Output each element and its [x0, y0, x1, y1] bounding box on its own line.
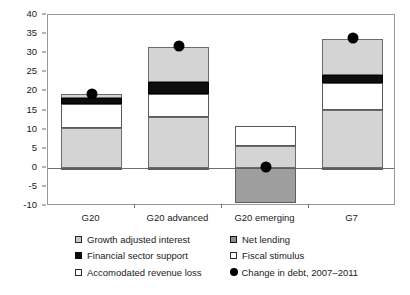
chart-legend: Growth adjusted interestFinancial sector…: [47, 232, 395, 284]
x-tick-mark: [134, 204, 135, 208]
y-tick-mark: [42, 71, 46, 72]
change-in-debt-marker: [260, 162, 271, 173]
y-tick-mark: [42, 185, 46, 186]
x-tick-mark: [308, 204, 309, 208]
square-swatch-black-icon: [75, 252, 82, 259]
change-in-debt-marker: [347, 33, 358, 44]
y-tick-label: 30: [26, 47, 37, 57]
legend-column-left: Growth adjusted interestFinancial sector…: [75, 232, 202, 282]
legend-item[interactable]: Financial sector support: [75, 249, 202, 263]
legend-item[interactable]: Accomodated revenue loss: [75, 265, 202, 279]
bar-segment: [148, 94, 209, 117]
bar-segment-negative: [61, 168, 122, 170]
y-tick-label: 0: [32, 162, 37, 172]
plot-frame: [47, 14, 395, 205]
bar-group: [235, 15, 296, 204]
square-swatch-darkgray-icon: [230, 236, 237, 243]
x-tick-label: G7: [345, 212, 358, 223]
legend-label: Financial sector support: [87, 250, 188, 261]
bar-segment-negative: [148, 168, 209, 170]
y-tick-label: -10: [23, 200, 37, 210]
y-tick-mark: [42, 33, 46, 34]
y-tick-label: 25: [26, 66, 37, 76]
y-tick-mark: [42, 147, 46, 148]
legend-label: Net lending: [242, 234, 290, 245]
y-tick-mark: [42, 205, 46, 206]
y-tick-label: 15: [26, 105, 37, 115]
chart-figure: -10-50510152025303540 G20G20 advancedG20…: [0, 0, 410, 295]
bar-segment-negative: [322, 168, 383, 170]
y-tick-mark: [42, 166, 46, 167]
change-in-debt-marker: [86, 88, 97, 99]
legend-label: Fiscal stimulus: [242, 250, 304, 261]
bar-group: [148, 15, 209, 204]
bar-segment: [61, 128, 122, 167]
bar-segment: [322, 83, 383, 111]
y-tick-mark: [42, 109, 46, 110]
x-tick-label: G20 advanced: [147, 212, 209, 223]
legend-item[interactable]: Change in debt, 2007–2011: [230, 265, 358, 279]
square-swatch-white-icon: [75, 269, 82, 276]
y-tick-mark: [42, 90, 46, 91]
plot-area: [48, 15, 394, 204]
y-axis: -10-50510152025303540: [0, 0, 47, 205]
legend-label: Change in debt, 2007–2011: [242, 267, 359, 278]
legend-label: Accomodated revenue loss: [87, 267, 202, 278]
legend-item[interactable]: Growth adjusted interest: [75, 232, 202, 246]
change-in-debt-marker: [173, 41, 184, 52]
y-tick-mark: [42, 14, 46, 15]
bar-segment: [322, 75, 383, 82]
bar-segment-negative: [235, 168, 296, 204]
bar-segment: [322, 110, 383, 168]
bar-segment: [148, 117, 209, 168]
bar-group: [322, 15, 383, 204]
y-tick-label: 35: [26, 28, 37, 38]
legend-item[interactable]: Net lending: [230, 232, 358, 246]
x-tick-label: G20: [82, 212, 100, 223]
y-tick-label: 10: [26, 124, 37, 134]
y-tick-mark: [42, 52, 46, 53]
legend-column-right: Net lendingFiscal stimulusChange in debt…: [230, 232, 358, 282]
x-tick-mark: [221, 204, 222, 208]
legend-label: Growth adjusted interest: [87, 234, 190, 245]
x-tick-label: G20 emerging: [234, 212, 294, 223]
bar-segment: [61, 104, 122, 128]
bar-segment: [148, 47, 209, 83]
y-tick-label: 20: [26, 85, 37, 95]
bar-segment: [235, 126, 296, 146]
bar-segment: [148, 82, 209, 94]
bar-segment: [322, 39, 383, 75]
y-tick-mark: [42, 128, 46, 129]
y-tick-label: 5: [32, 143, 37, 153]
y-tick-label: 40: [26, 9, 37, 19]
circle-marker-black-icon: [230, 268, 238, 276]
y-tick-label: -5: [29, 181, 37, 191]
square-swatch-gray-icon: [75, 236, 82, 243]
bar-group: [61, 15, 122, 204]
square-swatch-white-icon: [230, 252, 237, 259]
x-axis: G20G20 advancedG20 emergingG7: [47, 208, 395, 228]
legend-item[interactable]: Fiscal stimulus: [230, 249, 358, 263]
